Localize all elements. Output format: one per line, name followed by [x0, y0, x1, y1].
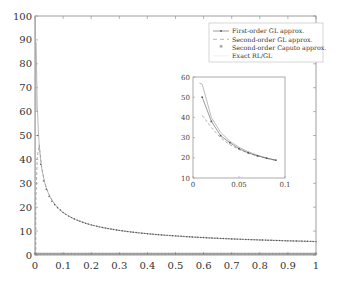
y-tick-label: 90 — [19, 34, 32, 45]
first-order-point — [251, 239, 252, 240]
first-order-point — [43, 180, 44, 181]
first-order-point — [54, 204, 55, 205]
first-order-point — [234, 238, 235, 239]
first-order-point — [155, 234, 156, 235]
inset-x-tick-label: 0 — [191, 181, 195, 189]
y-tick-label: 100 — [13, 11, 32, 22]
first-order-point — [68, 215, 69, 216]
inset-first-order-point — [220, 135, 222, 137]
x-tick-label: 1 — [313, 260, 319, 271]
inset-first-order-point — [247, 152, 249, 154]
first-order-point — [138, 232, 139, 233]
inset-y-tick-label: 50 — [181, 94, 190, 102]
first-order-point — [197, 237, 198, 238]
first-order-point — [268, 240, 269, 241]
inset-y-tick-label: 40 — [181, 114, 190, 122]
first-order-point — [310, 241, 311, 242]
first-order-point — [298, 240, 299, 241]
first-order-point — [147, 233, 148, 234]
first-order-point — [186, 236, 187, 237]
first-order-point — [130, 231, 131, 232]
x-tick-label: 0.6 — [196, 260, 212, 271]
first-order-point — [121, 230, 122, 231]
x-tick-label: 0.9 — [280, 260, 296, 271]
y-tick-label: 0 — [26, 250, 32, 261]
y-tick-label: 10 — [19, 226, 32, 237]
inset-first-order-point — [201, 96, 203, 98]
y-tick-label: 70 — [19, 82, 32, 93]
first-order-point — [172, 235, 173, 236]
first-order-point — [282, 240, 283, 241]
y-tick-label: 40 — [19, 154, 32, 165]
first-order-point — [51, 201, 52, 202]
legend-swatch-dot — [220, 30, 222, 32]
first-order-point — [141, 232, 142, 233]
first-order-point — [65, 214, 66, 215]
first-order-point — [279, 240, 280, 241]
first-order-point — [217, 238, 218, 239]
inset-y-tick-label: 20 — [181, 154, 190, 162]
legend-label: Exact RL/GL — [232, 52, 273, 59]
first-order-point — [79, 221, 80, 222]
first-order-point — [228, 238, 229, 239]
first-order-point — [96, 226, 97, 227]
first-order-point — [93, 225, 94, 226]
first-order-point — [296, 240, 297, 241]
first-order-point — [135, 232, 136, 233]
x-tick-label: 0.3 — [111, 260, 127, 271]
first-order-point — [178, 235, 179, 236]
first-order-point — [85, 223, 86, 224]
first-order-point — [265, 239, 266, 240]
legend-label: Second-order Caputo approx. — [232, 44, 326, 52]
first-order-point — [124, 230, 125, 231]
first-order-point — [133, 232, 134, 233]
first-order-point — [220, 238, 221, 239]
first-order-point — [206, 237, 207, 238]
first-order-point — [192, 236, 193, 237]
first-order-point — [242, 239, 243, 240]
y-tick-label: 50 — [19, 130, 32, 141]
x-tick-label: 0.7 — [224, 260, 240, 271]
first-order-point — [71, 217, 72, 218]
first-order-point — [200, 237, 201, 238]
first-order-point — [248, 239, 249, 240]
first-order-point — [37, 135, 38, 136]
legend-label: First-order GL approx. — [232, 27, 304, 35]
first-order-point — [276, 240, 277, 241]
legend-swatch-asterisk: * — [219, 44, 223, 52]
first-order-point — [166, 235, 167, 236]
first-order-point — [48, 196, 49, 197]
first-order-point — [259, 239, 260, 240]
first-order-point — [256, 239, 257, 240]
first-order-point — [203, 237, 204, 238]
x-tick-label: 0 — [32, 260, 38, 271]
first-order-point — [183, 236, 184, 237]
first-order-point — [88, 223, 89, 224]
first-order-point — [245, 239, 246, 240]
first-order-point — [223, 238, 224, 239]
inset-first-order-point — [229, 142, 231, 144]
first-order-point — [152, 234, 153, 235]
inset-first-order-point — [257, 155, 259, 157]
first-order-point — [312, 241, 313, 242]
first-order-point — [91, 224, 92, 225]
first-order-point — [62, 212, 63, 213]
x-tick-label: 0.2 — [83, 260, 99, 271]
first-order-point — [189, 236, 190, 237]
first-order-point — [315, 241, 316, 242]
first-order-point — [119, 230, 120, 231]
y-tick-label: 80 — [19, 58, 32, 69]
first-order-point — [164, 234, 165, 235]
first-order-point — [262, 239, 263, 240]
x-tick-label: 0.8 — [252, 260, 268, 271]
first-order-point — [231, 238, 232, 239]
first-order-point — [150, 233, 151, 234]
first-order-point — [107, 228, 108, 229]
first-order-point — [57, 207, 58, 208]
first-order-point — [209, 237, 210, 238]
first-order-point — [127, 231, 128, 232]
first-order-point — [211, 237, 212, 238]
inset-first-order-point — [211, 121, 213, 123]
first-order-point — [214, 237, 215, 238]
first-order-point — [161, 234, 162, 235]
